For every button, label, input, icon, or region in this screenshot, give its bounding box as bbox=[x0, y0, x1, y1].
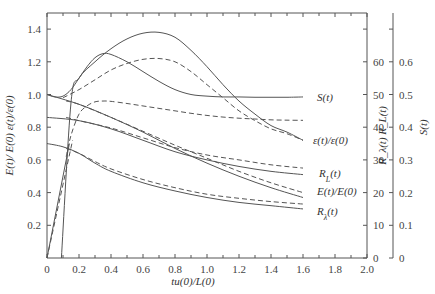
x-tick-label: 0.8 bbox=[168, 263, 182, 275]
x-tick-label: 0.4 bbox=[104, 263, 118, 275]
x-tick-label: 1.6 bbox=[296, 263, 310, 275]
x-tick-label: 0.2 bbox=[72, 263, 86, 275]
y-tick-label-right-1: 0 bbox=[373, 252, 379, 264]
curve-r-t bbox=[47, 144, 303, 209]
y-tick-label: 1.4 bbox=[27, 23, 41, 35]
curve-s-t-model bbox=[66, 101, 303, 157]
y-tick-label-right-2: 0.2 bbox=[399, 187, 413, 199]
y-tick-label: 0.4 bbox=[27, 187, 41, 199]
y-tick-label: 0.6 bbox=[27, 154, 41, 166]
y-tick-label: 1.2 bbox=[27, 56, 41, 68]
curve-label: S(t) bbox=[317, 91, 333, 104]
curve-label: ε(t)/ε(0) bbox=[313, 134, 348, 147]
y-tick-label-right-2: 0.3 bbox=[399, 154, 413, 166]
curve-s-t bbox=[47, 53, 303, 97]
y-tick-label-right-1: 60 bbox=[373, 56, 385, 68]
x-tick-label: 0 bbox=[44, 263, 50, 275]
y-tick-label-right-2: 0.6 bbox=[399, 56, 413, 68]
y-axis-label-right-1: R_λ(t) R_L(t) bbox=[376, 106, 389, 166]
y-tick-label-right-1: 20 bbox=[373, 187, 385, 199]
y-tick-label-right-2: 0 bbox=[399, 252, 405, 264]
curve-r-l-t-model bbox=[66, 117, 303, 168]
curve-initial-ramp-model bbox=[47, 140, 73, 258]
x-tick-label: 1.8 bbox=[328, 263, 342, 275]
chart: 00.20.40.60.81.01.21.41.61.82.00.20.40.6… bbox=[0, 0, 435, 294]
x-tick-label: 1.4 bbox=[264, 263, 278, 275]
y-axis-label-right-2: S(t) bbox=[417, 119, 430, 135]
curve-r-t-model bbox=[66, 148, 303, 204]
curve-e-t-e-0 bbox=[47, 95, 303, 198]
x-tick-label: 2.0 bbox=[360, 263, 374, 275]
y-tick-label-right-2: 0.4 bbox=[399, 121, 413, 133]
y-tick-label-right-2: 0.1 bbox=[399, 219, 413, 231]
x-tick-label: 1.0 bbox=[200, 263, 214, 275]
y-tick-label-right-1: 10 bbox=[373, 219, 385, 231]
curve-label: Rλ(t) bbox=[316, 205, 338, 222]
curve-e-t-e-0-model bbox=[66, 101, 303, 193]
curve-label: E(t)/E(0) bbox=[316, 185, 357, 198]
y-tick-label-right-1: 50 bbox=[373, 89, 385, 101]
y-tick-label: 0.2 bbox=[27, 219, 41, 231]
curve-label: RL(t) bbox=[318, 167, 341, 184]
x-tick-label: 0.6 bbox=[136, 263, 150, 275]
y-tick-label: 1.0 bbox=[27, 89, 41, 101]
curve-t-0-model bbox=[63, 58, 303, 140]
x-axis-label: tu(0)/L(0) bbox=[171, 275, 215, 288]
curves bbox=[47, 32, 303, 258]
y-tick-label-right-2: 0.5 bbox=[399, 89, 413, 101]
x-tick-label: 1.2 bbox=[232, 263, 246, 275]
y-tick-label: 0.8 bbox=[27, 121, 41, 133]
y-axis-label-left: E(t)/ E(0) ε(t)/ε(0) bbox=[3, 95, 16, 176]
